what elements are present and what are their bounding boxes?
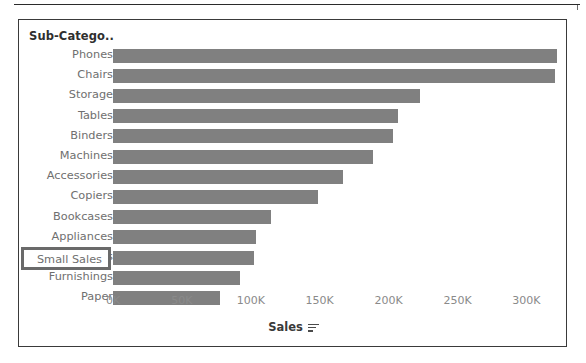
bar-row-label[interactable]: Phones [0,48,113,62]
selected-category-highlight[interactable]: Small Sales [21,247,111,270]
x-axis-tick-label: 50K [171,294,192,307]
bar-row-label[interactable]: Copiers [0,189,113,203]
bar-row[interactable]: Storage [19,86,568,106]
bar-chart-panel: Sub-Catego.. PhonesChairsStorageTablesBi… [18,19,567,347]
bar-row[interactable]: Furnishings [19,268,568,288]
bar-row-label[interactable]: Tables [0,109,113,123]
bar-row-label[interactable]: Chairs [0,68,113,82]
x-axis-tick-label: 150K [306,294,334,307]
x-axis-tick-label: 300K [512,294,540,307]
x-axis-tick-label: 200K [374,294,402,307]
bar-row[interactable]: Chairs [19,66,568,86]
bar[interactable] [113,251,254,265]
bar-row[interactable]: Bookcases [19,208,568,228]
bar-row[interactable]: Binders [19,127,568,147]
bar-row-label[interactable]: Appliances [0,230,113,244]
bar-row[interactable]: Tables [19,107,568,127]
bar[interactable] [113,170,343,184]
bar[interactable] [113,150,373,164]
bar-row-label[interactable]: Storage [0,88,113,102]
bar[interactable] [113,89,420,103]
sort-descending-icon[interactable] [308,324,319,333]
top-divider-rule [14,4,580,5]
bar-row[interactable]: Copiers [19,187,568,207]
bar-row-label[interactable]: Bookcases [0,210,113,224]
bar-row-label[interactable]: Machines [0,149,113,163]
bar[interactable] [113,190,318,204]
x-axis-tick-label: 100K [237,294,265,307]
bar-row-label[interactable]: Furnishings [0,270,113,284]
x-axis-title-group[interactable]: Sales [19,320,568,334]
bar-row-label[interactable]: Accessories [0,169,113,183]
bar-row-label[interactable]: Binders [0,129,113,143]
bar[interactable] [113,69,555,83]
rule-end-tick [577,5,578,10]
bar[interactable] [113,210,271,224]
x-axis-tick-label: 250K [443,294,471,307]
bar[interactable] [113,109,398,123]
x-axis-title: Sales [268,320,303,334]
bar-row[interactable]: Machines [19,147,568,167]
x-axis-ticks: 0K50K100K150K200K250K300K [19,294,568,314]
bar-row[interactable]: Appliances [19,228,568,248]
bar[interactable] [113,230,256,244]
bar[interactable] [113,49,557,63]
selected-category-label: Small Sales [24,253,102,266]
bar-row[interactable]: Phones [19,46,568,66]
x-axis-tick-label: 0K [106,294,120,307]
bar[interactable] [113,129,393,143]
bar-row[interactable]: Accessories [19,167,568,187]
bar[interactable] [113,271,240,285]
